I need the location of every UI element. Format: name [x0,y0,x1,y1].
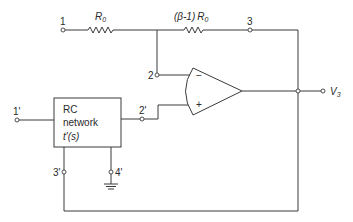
terminal-1p [15,118,19,122]
resistor-r0 [88,27,113,33]
label-node-3p: 3' [53,167,61,178]
label-node-3: 3 [247,16,253,27]
terminal-1 [61,28,65,32]
label-node-1: 1 [60,16,66,27]
terminal-4p [109,170,113,174]
opamp-plus-sign: + [196,99,202,110]
circuit-diagram: − + RC network t'(s) 1 3 2 2' 1' 3' 4' R… [0,0,353,222]
terminal-2p [140,117,144,121]
schematic-svg: − + RC network t'(s) 1 3 2 2' 1' 3' 4' R… [0,0,353,222]
label-r0: R0 [95,11,106,23]
label-node-2p: 2' [139,105,147,116]
terminal-3 [248,28,252,32]
terminal-3p [62,170,66,174]
top-wire [65,27,298,33]
terminal-2 [155,73,159,77]
rc-label-line3: t'(s) [63,131,79,142]
rc-label-line1: RC [63,104,77,115]
label-node-2: 2 [148,70,154,81]
noninverting-input-wire [144,105,188,119]
opamp-symbol [186,68,243,115]
rc-label-line2: network [63,117,99,128]
label-beta-r0: (β-1)R0 [174,11,209,23]
output-junction [296,89,300,93]
label-node-4p: 4' [115,167,123,178]
resistor-beta-r0 [184,27,203,33]
label-node-1p: 1' [13,106,21,117]
bottom-return-wire [64,174,298,211]
terminal-v3 [321,89,325,93]
label-v3: V3 [330,86,341,98]
opamp-minus-sign: − [196,70,202,81]
